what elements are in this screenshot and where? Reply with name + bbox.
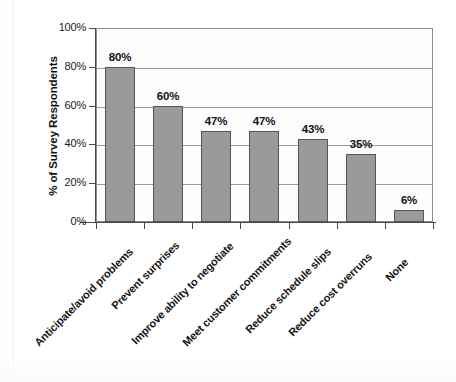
y-tick-100: [89, 28, 95, 29]
bar-none[interactable]: [394, 210, 424, 222]
x-tick-4: [289, 223, 290, 229]
x-tick-5: [337, 223, 338, 229]
x-tick-3: [240, 223, 241, 229]
x-category-label-reduce-cost-overruns: Reduce cost overruns: [286, 250, 374, 338]
y-axis-line: [95, 28, 96, 223]
x-category-label-reduce-schedule-slips: Reduce schedule slips: [243, 245, 333, 335]
bar-value-label-5: 35%: [341, 138, 381, 150]
page-background: % of Survey Respondents 100% 80% 60% 40%…: [0, 0, 456, 382]
gridline-80: [97, 68, 432, 69]
bar-value-label-3: 47%: [244, 115, 284, 127]
y-tick-label-80: 80%: [48, 60, 86, 72]
x-tick-1: [144, 223, 145, 229]
bar-anticipate-avoid-problems[interactable]: [105, 67, 135, 222]
x-tick-2: [192, 223, 193, 229]
y-tick-60: [89, 106, 95, 107]
bar-meet-customer-commitments[interactable]: [249, 131, 279, 222]
bar-value-label-4: 43%: [293, 123, 333, 135]
bar-value-label-0: 80%: [100, 51, 140, 63]
bar-reduce-schedule-slips[interactable]: [298, 139, 328, 222]
y-tick-20: [89, 183, 95, 184]
x-axis-line: [80, 222, 436, 223]
y-tick-0: [89, 222, 95, 223]
y-tick-label-20: 20%: [48, 176, 86, 188]
bar-improve-ability-to-negotiate[interactable]: [201, 131, 231, 222]
bar-chart: % of Survey Respondents 100% 80% 60% 40%…: [0, 0, 456, 382]
gridline-60: [97, 107, 432, 108]
x-tick-0: [96, 223, 97, 229]
x-tick-7: [433, 223, 434, 229]
y-tick-80: [89, 67, 95, 68]
bar-reduce-cost-overruns[interactable]: [346, 154, 376, 222]
y-tick-label-0: 0%: [48, 215, 86, 227]
bar-prevent-surprises[interactable]: [153, 106, 183, 222]
x-category-label-improve-ability-to-negotiate: Improve ability to negotiate: [129, 240, 236, 347]
y-tick-label-40: 40%: [48, 137, 86, 149]
y-tick-40: [89, 144, 95, 145]
x-tick-6: [385, 223, 386, 229]
bar-value-label-6: 6%: [389, 194, 429, 206]
bar-value-label-1: 60%: [148, 90, 188, 102]
y-tick-label-60: 60%: [48, 99, 86, 111]
bar-value-label-2: 47%: [196, 115, 236, 127]
x-category-label-none: None: [383, 256, 411, 284]
y-tick-label-100: 100%: [48, 21, 86, 33]
